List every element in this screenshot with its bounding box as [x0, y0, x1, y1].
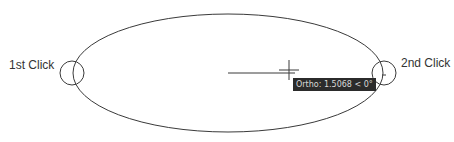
second-click-label: 2nd Click: [401, 56, 450, 70]
crosshair-cursor-icon: [279, 60, 299, 80]
drawing-canvas[interactable]: [0, 0, 454, 142]
first-click-marker: [60, 61, 84, 85]
first-click-label: 1st Click: [9, 58, 54, 72]
ortho-tooltip: Ortho: 1.5068 < 0°: [293, 78, 376, 91]
